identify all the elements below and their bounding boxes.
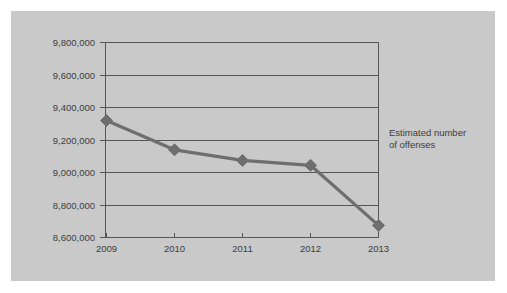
chart-screenshot: 9,800,000 9,600,000 9,400,000 9,200,000 … — [0, 0, 507, 293]
chart-panel — [11, 11, 495, 281]
